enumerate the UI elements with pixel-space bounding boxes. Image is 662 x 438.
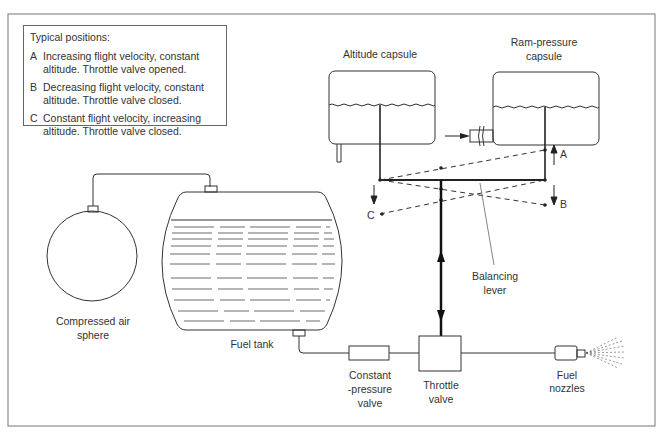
control-rod xyxy=(437,180,445,336)
constant-pressure-valve-label-2: -pressure xyxy=(348,383,393,395)
fuel-nozzles-label: Fuel xyxy=(557,369,577,381)
fuel-nozzle xyxy=(555,337,624,368)
balancing-leader xyxy=(480,183,494,265)
constant-pressure-valve-label: Constant xyxy=(349,369,391,381)
fuel-tank-label: Fuel tank xyxy=(230,338,274,350)
position-arrows xyxy=(371,145,557,205)
ram-pressure-capsule-label: Ram-pressure xyxy=(511,36,578,48)
legend-text: Constant flight velocity, increasing alt… xyxy=(43,112,220,138)
legend-item-c: C Constant flight velocity, increasing a… xyxy=(30,112,220,138)
legend-item-a: A Increasing flight velocity, constant a… xyxy=(30,50,220,76)
throttle-valve-label: Throttle xyxy=(423,379,459,391)
legend-text: Decreasing flight velocity, constant alt… xyxy=(43,81,220,107)
throttle-valve xyxy=(419,336,461,371)
position-a-label: A xyxy=(560,148,567,160)
position-b-label: B xyxy=(560,198,567,210)
fuel-tank xyxy=(162,186,349,353)
legend-item-b: B Decreasing flight velocity, constant a… xyxy=(30,81,220,107)
altitude-capsule xyxy=(329,71,435,180)
position-c-label: C xyxy=(367,209,375,221)
balancing-lever-label-2: lever xyxy=(484,284,507,296)
legend-text: Increasing flight velocity, constant alt… xyxy=(43,50,220,76)
lever-alt-positions xyxy=(380,150,545,214)
compressed-air-sphere xyxy=(47,174,210,301)
altitude-capsule-label: Altitude capsule xyxy=(343,48,417,60)
constant-pressure-valve xyxy=(349,346,389,360)
ram-pressure-capsule-label-2: capsule xyxy=(526,50,562,62)
legend-letter: B xyxy=(30,81,43,107)
legend-title: Typical positions: xyxy=(30,31,220,44)
compressed-air-sphere-label: Compressed air xyxy=(56,315,131,327)
fuel-nozzles-label-2: nozzles xyxy=(549,382,585,394)
compressed-air-sphere-label-2: sphere xyxy=(77,329,109,341)
ram-pressure-capsule xyxy=(445,72,599,180)
legend-letter: A xyxy=(30,50,43,76)
constant-pressure-valve-label-3: valve xyxy=(358,397,383,409)
balancing-lever-label: Balancing xyxy=(472,270,518,282)
legend-letter: C xyxy=(30,112,43,138)
throttle-valve-label-2: valve xyxy=(429,393,454,405)
legend-box: Typical positions: A Increasing flight v… xyxy=(23,25,227,126)
